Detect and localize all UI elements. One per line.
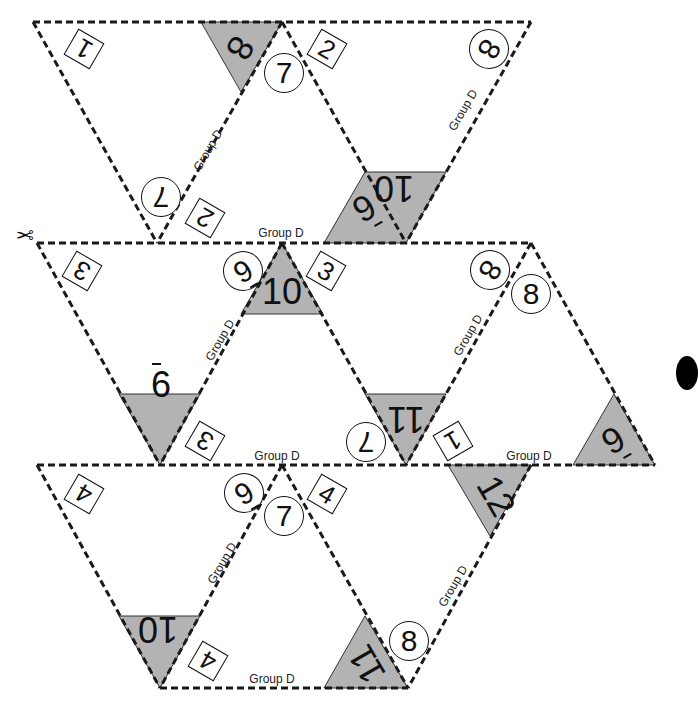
group-label: Group D [247, 449, 307, 463]
group-label: Group D [499, 449, 559, 463]
shaded-number-label: 10 [369, 168, 419, 208]
dashed-lines [33, 22, 655, 688]
circle-number-label: 7 [346, 422, 386, 462]
shaded-number-label: 11 [381, 399, 431, 439]
circle-number-label: 7 [264, 496, 304, 536]
shaded-number-label: 6 [136, 365, 186, 405]
group-label: Group D [251, 226, 311, 240]
circle-number-label: 7 [141, 177, 181, 217]
black-dot [676, 356, 698, 390]
circle-number-label: 7 [264, 53, 304, 93]
circle-number-label: 8 [389, 621, 429, 661]
shaded-number-label: 10 [257, 272, 307, 312]
scissors-icon: ✂ [16, 221, 34, 247]
circle-number-label: 8 [511, 274, 551, 314]
group-label: Group D [242, 672, 302, 686]
shaded-number-label: 10 [133, 609, 183, 649]
